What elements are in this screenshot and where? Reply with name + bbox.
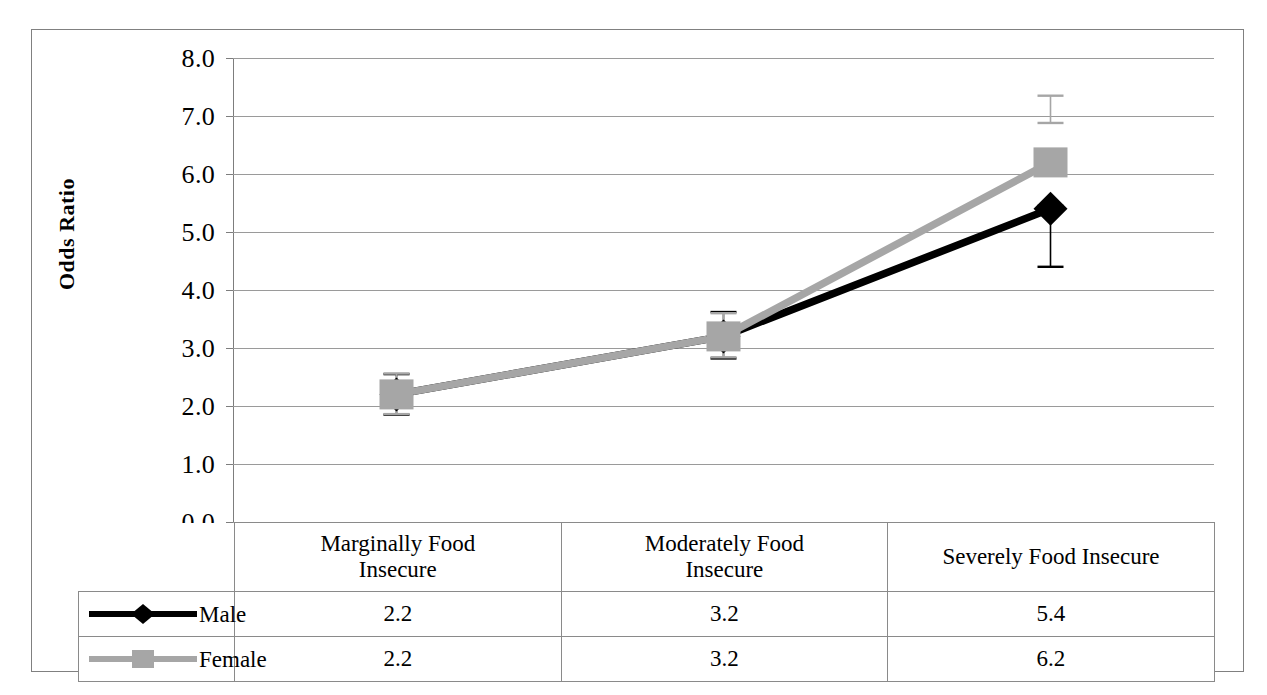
y-tick-label-4: 4.0 [182, 278, 215, 304]
table-row-male: Male 2.2 3.2 5.4 [79, 592, 1215, 637]
y-tick-label-5: 5.0 [182, 220, 215, 246]
cell-male-marginally: 2.2 [235, 592, 562, 637]
cell-female-moderately: 3.2 [561, 637, 888, 682]
y-tick-mark-7: 7.0 [226, 116, 233, 117]
column-header-line2: Insecure [359, 557, 437, 582]
data-point-female-1 [707, 321, 741, 351]
column-header-line1: Moderately Food [645, 531, 804, 556]
table-corner-blank [79, 523, 235, 592]
y-tick-mark-4: 4.0 [226, 290, 233, 291]
error-bar-female-2 [1038, 96, 1064, 123]
data-point-male-2 [1034, 192, 1068, 226]
column-header-line2: Insecure [685, 557, 763, 582]
cell-female-severely: 6.2 [888, 637, 1215, 682]
legend-entry-female[interactable]: Female [79, 637, 235, 682]
cell-male-moderately: 3.2 [561, 592, 888, 637]
legend-marker-square-icon [87, 647, 199, 671]
table-row-female: Female 2.2 3.2 6.2 [79, 637, 1215, 682]
y-tick-label-6: 6.0 [182, 162, 215, 188]
plot-area: 8.0 7.0 6.0 5.0 4.0 3.0 2.0 1.0 [233, 58, 1214, 522]
y-tick-mark-2: 2.0 [226, 406, 233, 407]
y-tick-mark-5: 5.0 [226, 232, 233, 233]
column-header-moderately-food-insecure: Moderately Food Insecure [561, 523, 888, 592]
cell-male-severely: 5.4 [888, 592, 1215, 637]
column-header-severely-food-insecure: Severely Food Insecure [888, 523, 1215, 592]
column-header-line1: Marginally Food [320, 531, 475, 556]
odds-ratio-figure: Odds Ratio 8.0 7.0 6.0 5.0 4.0 3.0 [0, 0, 1267, 695]
y-tick-label-1: 1.0 [182, 452, 215, 478]
legend-entry-male[interactable]: Male [79, 592, 235, 637]
series-line-male [397, 209, 1051, 395]
y-tick-label-3: 3.0 [182, 336, 215, 362]
column-header-marginally-food-insecure: Marginally Food Insecure [235, 523, 562, 592]
data-table: Marginally Food Insecure Moderately Food… [78, 522, 1215, 682]
series-plot [233, 58, 1214, 522]
y-tick-mark-6: 6.0 [226, 174, 233, 175]
table-header-row: Marginally Food Insecure Moderately Food… [79, 523, 1215, 592]
y-axis-title: Odds Ratio [54, 178, 80, 290]
legend-marker-diamond-icon [87, 602, 199, 626]
y-tick-mark-1: 1.0 [226, 464, 233, 465]
legend-label-male: Male [199, 603, 246, 626]
cell-female-marginally: 2.2 [235, 637, 562, 682]
y-tick-mark-8: 8.0 [226, 58, 233, 59]
data-point-female-0 [380, 379, 414, 409]
y-tick-label-2: 2.0 [182, 394, 215, 420]
column-header-line1: Severely Food Insecure [942, 544, 1159, 569]
y-tick-label-8: 8.0 [182, 46, 215, 72]
y-tick-mark-3: 3.0 [226, 348, 233, 349]
data-point-female-2 [1034, 147, 1068, 177]
legend-label-female: Female [199, 648, 267, 671]
y-tick-label-7: 7.0 [182, 104, 215, 130]
